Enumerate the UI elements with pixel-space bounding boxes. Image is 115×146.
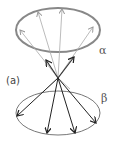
beta-label: β: [101, 92, 107, 105]
alpha-label: α: [99, 44, 106, 57]
upper-cone-alpha: [16, 8, 100, 78]
spin-cone-diagram: [0, 0, 115, 146]
lower-cone-beta: [16, 78, 100, 135]
panel-label: (a): [6, 75, 20, 86]
upper-ellipse: [16, 8, 100, 52]
